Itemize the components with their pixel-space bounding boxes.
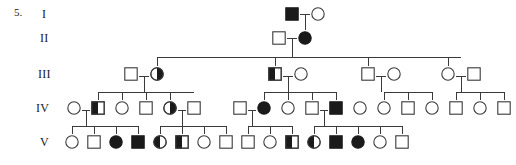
pedigree-symbol-square-filled [132,136,144,148]
pedigree-symbol-square-half-left [176,136,188,148]
pedigree-symbol-square-filled [330,102,342,114]
pedigree-symbol-square-filled [330,136,342,148]
pedigree-symbol-square-open [273,32,285,44]
pedigree-symbol-circle-filled [299,32,311,44]
pedigree-symbol-circle-open [474,102,486,114]
pedigree-symbol-circle-filled [110,136,122,148]
pedigree-symbol-square-open [140,102,152,114]
pedigree-symbol-circle-open [374,136,386,148]
pedigree-symbol-circle-open [312,8,324,20]
pedigree-symbol-square-open [402,102,414,114]
pedigree-symbol-circle-open [66,136,78,148]
pedigree-symbol-square-open [306,102,318,114]
pedigree-symbol-square-half-left [269,68,281,80]
pedigree-symbol-square-filled [286,8,298,20]
pedigree-symbol-circle-open [198,136,210,148]
pedigree-symbol-circle-half-left [308,136,320,148]
pedigree-diagram [0,0,516,165]
pedigree-symbol-circle-half-right [151,68,163,80]
pedigree-symbol-square-open [88,136,100,148]
pedigree-symbol-square-open [450,102,462,114]
pedigree-symbol-circle-open [282,102,294,114]
pedigree-symbol-circle-half-right [164,102,176,114]
pedigree-symbol-square-half-left [92,102,104,114]
pedigree-symbol-circle-half-left [154,136,166,148]
pedigree-symbol-circle-open [264,136,276,148]
pedigree-symbol-square-open [125,68,137,80]
pedigree-symbol-circle-open [116,102,128,114]
pedigree-symbol-circle-open [295,68,307,80]
pedigree-symbol-square-open [396,136,408,148]
pedigree-symbol-circle-open [442,68,454,80]
pedigree-symbol-circle-open [426,102,438,114]
pedigree-symbol-square-half-left [286,136,298,148]
pedigree-symbol-circle-filled [258,102,270,114]
pedigree-symbol-circle-open [388,68,400,80]
pedigree-symbol-square-open [468,68,480,80]
pedigree-symbol-square-open [498,102,510,114]
pedigree-symbol-square-open [188,102,200,114]
pedigree-symbol-circle-open [68,102,80,114]
pedigree-symbol-circle-open [378,102,390,114]
pedigree-symbol-square-open [220,136,232,148]
pedigree-figure: 5. I II III IV V [0,0,516,165]
pedigree-symbol-square-open [362,68,374,80]
pedigree-symbol-circle-filled [352,136,364,148]
pedigree-symbol-circle-open [354,102,366,114]
pedigree-symbol-square-open [242,136,254,148]
pedigree-symbol-square-open [234,102,246,114]
